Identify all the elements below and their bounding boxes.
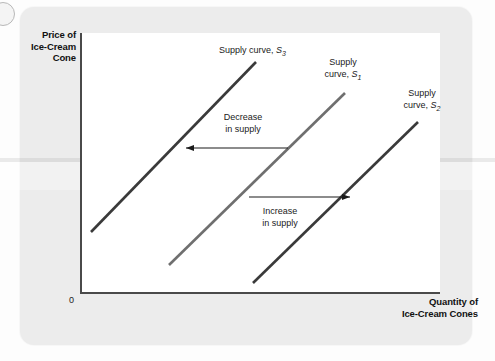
curve-label-s1-text: curve,	[325, 69, 352, 79]
curve-label-s3: Supply curve, S3	[219, 45, 286, 59]
decrease-in-supply-line-1: Decrease	[206, 111, 280, 123]
curve-label-s1-line-1: Supply	[309, 57, 377, 69]
x-axis-line	[80, 292, 440, 294]
y-axis-line	[80, 33, 82, 294]
decrease-in-supply-label: Decrease in supply	[206, 111, 280, 135]
curve-label-s3-subscript: 3	[282, 50, 286, 57]
curve-label-s1-subscript: 1	[358, 73, 362, 80]
curve-label-s1-line-2: curve, S1	[309, 69, 377, 83]
y-axis-label-line-2: Ice-Cream	[8, 41, 76, 53]
x-axis-label: Quantity of Ice-Cream Cones	[330, 296, 478, 319]
decrease-in-supply-line-2: in supply	[206, 123, 280, 135]
curve-label-s1: Supplycurve, S1	[309, 57, 377, 83]
curve-label-s2: Supplycurve, S2	[388, 88, 456, 114]
curve-label-s2-line-1: Supply	[388, 88, 456, 100]
increase-in-supply-line-2: in supply	[243, 217, 317, 229]
page-corner-mark	[0, 2, 15, 26]
curve-label-s3-text: Supply curve,	[219, 45, 276, 55]
curve-label-s2-line-2: curve, S2	[388, 100, 456, 114]
origin-label: 0	[69, 295, 74, 305]
increase-in-supply-line-1: Increase	[243, 205, 317, 217]
y-axis-label-line-1: Price of	[8, 29, 76, 41]
plot-area	[81, 33, 440, 293]
x-axis-label-line-1: Quantity of	[330, 296, 478, 308]
x-axis-label-line-2: Ice-Cream Cones	[330, 308, 478, 320]
curve-label-s2-text: curve,	[404, 100, 431, 110]
y-axis-label-line-3: Cone	[8, 52, 76, 64]
increase-in-supply-label: Increase in supply	[243, 205, 317, 229]
curve-label-s2-subscript: 2	[437, 104, 441, 111]
figure-root: Price of Ice-Cream Cone Quantity of Ice-…	[0, 0, 495, 361]
y-axis-label: Price of Ice-Cream Cone	[8, 29, 76, 64]
